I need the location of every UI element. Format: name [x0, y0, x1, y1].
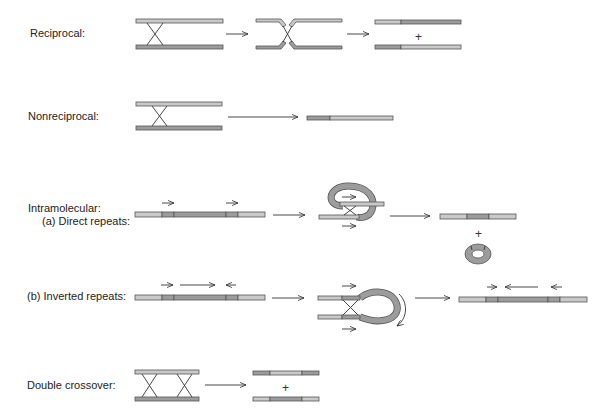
inverted-repeats-row [135, 285, 587, 329]
reciprocal-row: + [136, 19, 461, 49]
strand-light [136, 19, 223, 23]
double-crossover-row: + [135, 370, 319, 401]
plus-sign: + [475, 227, 482, 241]
nonreciprocal-row [136, 102, 393, 130]
plus-sign: + [415, 30, 422, 44]
recombination-diagram: Reciprocal: Nonreciprocal: Intramolecula… [0, 0, 612, 412]
strand-dark [136, 45, 223, 49]
diagram-graphics: + [0, 0, 612, 412]
direct-repeats-row: + [135, 186, 516, 264]
plus-sign: + [282, 381, 289, 395]
